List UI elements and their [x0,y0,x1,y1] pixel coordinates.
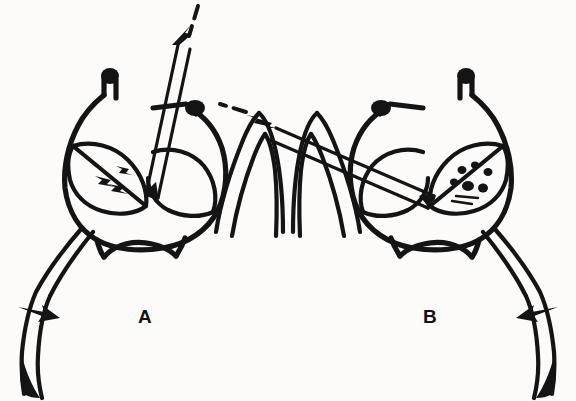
panel-a-knob-left [101,68,119,84]
panel-label-a: A [138,307,152,326]
figure-background [0,0,576,401]
figure-drawing [0,0,576,401]
panel-a-knob-right [185,100,205,116]
panel-label-b: B [423,307,437,326]
figure-container: A B [0,0,576,401]
panel-b-knob-left [371,100,391,116]
panel-b-knob-right [457,68,475,84]
